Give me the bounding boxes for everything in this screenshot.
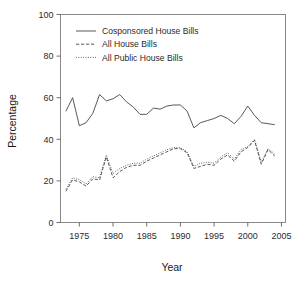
- y-tick-label: 40: [43, 135, 53, 145]
- x-tick-label: 1985: [137, 231, 157, 241]
- x-tick-label: 1990: [170, 231, 190, 241]
- y-tick-label: 20: [43, 176, 53, 186]
- x-tick-label: 1980: [103, 231, 123, 241]
- x-axis-title: Year: [161, 261, 183, 273]
- y-tick-label: 0: [48, 218, 53, 228]
- chart-figure: 020406080100 197519801985199019952000200…: [0, 0, 305, 286]
- y-axis-title: Percentage: [6, 94, 18, 148]
- x-tick-label: 1975: [69, 231, 89, 241]
- x-tick-label: 1995: [204, 231, 224, 241]
- x-tick-label: 2000: [238, 231, 258, 241]
- y-tick-label: 80: [43, 51, 53, 61]
- legend-label: Cosponsored House Bills: [102, 26, 199, 36]
- y-tick-label: 100: [38, 10, 53, 20]
- legend-label: All Public House Bills: [102, 53, 183, 63]
- line-chart: 020406080100 197519801985199019952000200…: [0, 0, 305, 286]
- y-tick-label: 60: [43, 93, 53, 103]
- legend-label: All House Bills: [102, 39, 157, 49]
- x-tick-label: 2005: [271, 231, 291, 241]
